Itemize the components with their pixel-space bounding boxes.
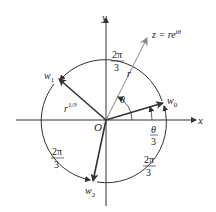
arc-label-right: 2π 3 — [143, 154, 156, 178]
theta-label: θ — [120, 94, 125, 105]
w1-sub: 1 — [51, 76, 55, 84]
arc-label-right-den: 3 — [146, 167, 151, 178]
w0-sub: 0 — [174, 101, 178, 109]
z-label-exponent: iθ — [176, 28, 182, 36]
z-label-base: z = re — [151, 29, 176, 40]
x-axis-label: x — [197, 114, 203, 126]
theta-third-angle-arc — [150, 107, 152, 120]
y-axis-label: y — [101, 11, 107, 23]
w0-vector — [106, 103, 163, 120]
cube-roots-diagram: y x O z = reiθ r θ r1/3 θ 3 2π 3 2π 3 2π… — [0, 0, 216, 212]
arc-w1-to-w2 — [41, 84, 90, 180]
w2-sub: 2 — [92, 191, 96, 199]
arc-label-right-num: 2π — [144, 154, 154, 165]
theta-over-3-num: θ — [151, 124, 156, 135]
z-label: z = reiθ — [151, 28, 182, 40]
arc-label-left-den: 3 — [54, 159, 59, 170]
arc-label-top: 2π 3 — [111, 49, 124, 73]
r-label: r — [127, 68, 131, 79]
w2-label: w2 — [85, 185, 96, 199]
r-cube-root-exp: 1/3 — [68, 101, 77, 109]
origin-label: O — [94, 121, 102, 133]
w0-label: w0 — [167, 95, 178, 109]
r-cube-root-label: r1/3 — [64, 101, 77, 114]
arc-w0-to-w1 — [60, 60, 162, 101]
arc-label-top-den: 3 — [114, 62, 119, 73]
arc-label-top-num: 2π — [112, 49, 122, 60]
theta-over-3-den: 3 — [151, 136, 156, 147]
w1-label: w1 — [44, 70, 55, 84]
arc-label-left-num: 2π — [52, 146, 62, 157]
theta-over-3-label: θ 3 — [150, 124, 158, 147]
